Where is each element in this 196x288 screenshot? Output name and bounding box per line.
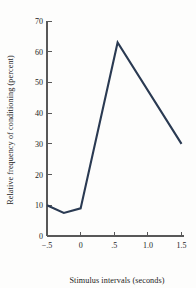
y-axis-tick-labels: 010203040506070 (35, 17, 43, 241)
x-tick-label: .5 (111, 241, 117, 250)
x-tick-label: −.5 (42, 241, 53, 250)
x-axis-title: Stimulus intervals (seconds) (69, 276, 164, 285)
y-tick-label: 30 (35, 140, 43, 149)
y-axis-title: Relative frequency of conditioning (perc… (6, 55, 15, 205)
y-tick-label: 70 (35, 17, 43, 26)
y-tick-label: 10 (35, 201, 43, 210)
line-chart: 010203040506070 −.50.51.01.5 Stimulus in… (0, 0, 196, 288)
y-tick-label: 40 (35, 109, 43, 118)
y-tick-label: 60 (35, 48, 43, 57)
x-tick-label: 0 (79, 241, 83, 250)
data-series-line (47, 43, 182, 213)
chart-figure: 010203040506070 −.50.51.01.5 Stimulus in… (0, 0, 196, 288)
y-tick-label: 50 (35, 78, 43, 87)
x-tick-label: 1.5 (177, 241, 187, 250)
y-tick-label: 20 (35, 171, 43, 180)
x-axis-tick-labels: −.50.51.01.5 (42, 241, 187, 250)
y-tick-label: 0 (39, 232, 43, 241)
x-tick-label: 1.0 (143, 241, 153, 250)
